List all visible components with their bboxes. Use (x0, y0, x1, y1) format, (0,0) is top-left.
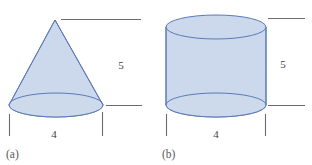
figure-canvas: 5 4 (a) 5 (0, 0, 312, 165)
cylinder-height-label: 5 (280, 58, 286, 70)
panel-label-a: (a) (6, 148, 19, 161)
cone-height-label: 5 (118, 59, 124, 71)
cone-width-label: 4 (51, 128, 57, 140)
cylinder-top-ellipse (166, 15, 266, 39)
cylinder-bottom-ellipse (166, 93, 266, 117)
panel-cylinder: 5 4 (b) (162, 15, 305, 161)
panel-label-b: (b) (162, 148, 176, 161)
cone-base-ellipse (9, 93, 103, 117)
cylinder-width-label: 4 (213, 128, 219, 140)
panel-cone: 5 4 (a) (6, 20, 142, 162)
geometry-figure: 5 4 (a) 5 (0, 0, 312, 165)
